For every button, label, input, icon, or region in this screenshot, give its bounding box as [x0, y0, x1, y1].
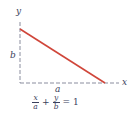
b-intercept-label: b — [10, 51, 16, 60]
equals-sign: = — [63, 97, 71, 107]
plus-sign: + — [42, 97, 50, 107]
denominator-b: b — [53, 103, 60, 111]
fraction-y-over-b: y b — [53, 94, 60, 111]
numerator-y: y — [53, 94, 59, 102]
x-axis-label: x — [122, 78, 127, 87]
intercept-equation: x a + y b = 1 — [32, 94, 79, 111]
denominator-a: a — [32, 103, 38, 111]
numerator-x: x — [32, 94, 38, 102]
rhs-value: 1 — [73, 97, 79, 107]
y-axis-label: y — [16, 7, 21, 16]
fraction-x-over-a: x a — [32, 94, 39, 111]
intercept-line — [20, 29, 105, 83]
